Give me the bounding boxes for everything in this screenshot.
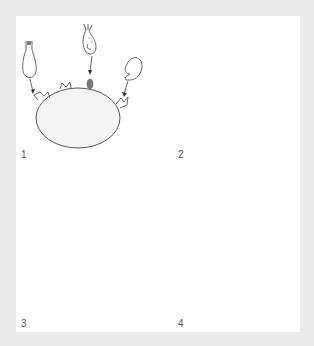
- panel-4-label: 4: [178, 319, 184, 329]
- cell-diagram: [0, 0, 314, 346]
- panel-3-label: 3: [21, 319, 27, 329]
- effector-cell-1-icon: [23, 41, 37, 94]
- panel-2-label: 2: [178, 150, 184, 160]
- panel-1: [23, 24, 142, 148]
- panel-1-label: 1: [21, 150, 27, 160]
- effector-cell-3-icon: [122, 58, 142, 97]
- target-cell: [36, 88, 120, 148]
- effector-cell-2-icon: [83, 24, 96, 75]
